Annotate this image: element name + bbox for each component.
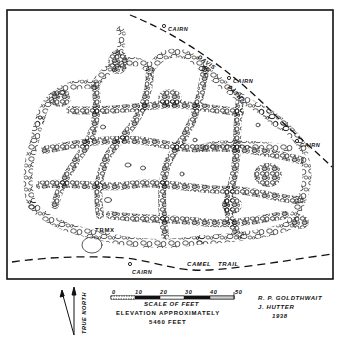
elevation-line-1: ELEVATION APPROXIMATELY [116, 310, 220, 316]
cairn-label: CAIRN [132, 269, 153, 275]
true-north-label: TRUE NORTH [81, 292, 87, 334]
cairn-label: CAIRN [233, 78, 254, 84]
benchmark-label: TBM [95, 227, 110, 233]
camel-label: CAMEL [187, 261, 211, 267]
cairn-label: CAIRN [168, 26, 189, 32]
svg-text:40: 40 [209, 289, 217, 295]
svg-text:30: 30 [185, 289, 192, 295]
map-figure: DAVIS PATH CAMEL TRAIL CAIRN CAIRN CAIRN… [0, 0, 339, 341]
svg-text:20: 20 [159, 289, 167, 295]
credit-year: 1938 [272, 313, 288, 319]
scale-ticks: 0 10 20 30 40 50 [112, 289, 242, 295]
cairn-label: CAIRN [300, 142, 321, 148]
north-arrow-icon [60, 287, 76, 335]
credit-author-1: R. P. GOLDTHWAIT [258, 295, 323, 301]
trail-label: TRAIL [218, 261, 239, 267]
svg-text:50: 50 [235, 289, 242, 295]
elevation-line-2: 5460 FEET [149, 319, 187, 325]
credit-author-2: J. HUTTER [258, 304, 294, 310]
scale-title: SCALE OF FEET [144, 301, 200, 307]
benchmark-marker: X [110, 227, 115, 233]
svg-text:0: 0 [112, 289, 116, 295]
svg-text:10: 10 [135, 289, 142, 295]
